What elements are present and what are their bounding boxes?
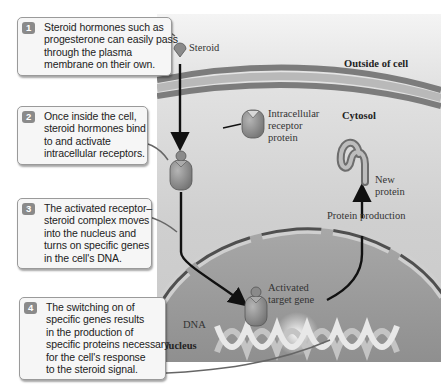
step-3-badge: 3 [22, 203, 35, 215]
step-4-badge: 4 [24, 302, 37, 314]
steroid-molecule-icon [174, 43, 186, 57]
receptor-label: Intracellular receptor protein [268, 108, 319, 144]
protein-production-label: Protein production [327, 210, 405, 222]
steroid-label: Steroid [189, 42, 219, 54]
cytosol-label: Cytosol [342, 110, 376, 122]
intracellular-receptor-icon [242, 110, 264, 138]
diagram-canvas: Steroid Outside of cell Intracellular re… [0, 0, 448, 392]
receptor-steroid-complex-icon [170, 151, 192, 190]
step-1-callout: 1 Steroid hormones such as progesterone … [17, 17, 172, 76]
cell-scene: Steroid Outside of cell Intracellular re… [157, 14, 441, 362]
dna-label: DNA [183, 319, 206, 331]
new-protein-label: New protein [375, 174, 405, 198]
outside-of-cell-label: Outside of cell [344, 58, 408, 70]
step-3-callout: 3 The activated receptor– steroid comple… [17, 198, 152, 269]
new-protein-icon [341, 143, 365, 182]
step-4-callout: 4 The switching on of specific genes res… [19, 297, 166, 380]
plasma-membrane [157, 68, 441, 106]
step-2-callout: 2 Once inside the cell, steroid hormones… [17, 106, 148, 165]
step-2-badge: 2 [22, 111, 35, 123]
activated-gene-label: Activated target gene [268, 282, 314, 306]
step-1-badge: 1 [22, 22, 35, 34]
receptor-leader-line [223, 124, 241, 128]
